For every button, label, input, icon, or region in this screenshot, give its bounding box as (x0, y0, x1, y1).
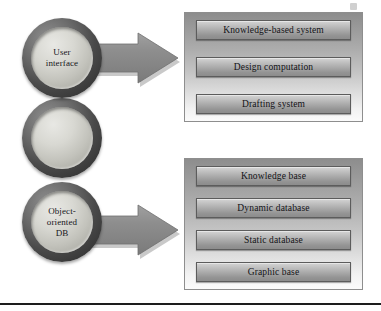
node-graphic-base[interactable]: Graphic base (196, 262, 351, 282)
architecture-diagram: User interface Object- oriented DB (0, 0, 381, 311)
arrow-right-icon-to-bottom-panel (88, 200, 186, 262)
node-knowledge-base[interactable]: Knowledge base (196, 166, 351, 186)
node-design-computation[interactable]: Design computation (196, 57, 351, 77)
node-drafting-system[interactable]: Drafting system (196, 94, 351, 114)
panel-top: Knowledge-based system Design computatio… (184, 12, 363, 122)
node-knowledge-based-system[interactable]: Knowledge-based system (196, 20, 351, 40)
ring-middle-empty (22, 98, 102, 178)
scan-artifact (350, 3, 357, 10)
panel-bottom: Knowledge base Dynamic database Static d… (184, 158, 363, 290)
node-static-database[interactable]: Static database (196, 230, 351, 250)
ring-inner-disc: User interface (31, 27, 93, 89)
ring-label-user-interface: User interface (42, 47, 82, 69)
ring-inner-disc (31, 107, 93, 169)
ring-label-object-oriented-db: Object- oriented DB (43, 206, 81, 239)
ring-user-interface: User interface (22, 18, 102, 98)
ring-object-oriented-db: Object- oriented DB (22, 182, 102, 262)
arrow-right-icon-to-top-panel (88, 28, 186, 90)
node-dynamic-database[interactable]: Dynamic database (196, 198, 351, 218)
horizontal-rule (0, 303, 381, 305)
ring-inner-disc: Object- oriented DB (31, 191, 93, 253)
